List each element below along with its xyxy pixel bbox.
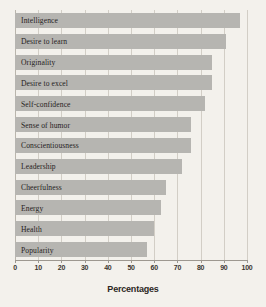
x-tick-mark (247, 260, 248, 263)
bar-category-label: Desire to excel (21, 78, 68, 87)
bar-row: Intelligence (15, 13, 247, 28)
bar-row: Health (15, 221, 247, 236)
bar-row: Leadership (15, 159, 247, 174)
bar-category-label: Self-confidence (21, 99, 71, 108)
x-tick-label: 90 (220, 264, 227, 271)
bar-row: Desire to learn (15, 34, 247, 49)
bar-row: Sense of humor (15, 117, 247, 132)
bar-category-label: Intelligence (21, 16, 58, 25)
x-tick-mark (177, 260, 178, 263)
bar-category-label: Originality (21, 58, 55, 67)
bar-category-label: Energy (21, 203, 43, 212)
x-tick-label: 60 (151, 264, 158, 271)
bar-row: Originality (15, 55, 247, 70)
x-tick-mark (108, 260, 109, 263)
x-tick-label: 30 (81, 264, 88, 271)
bar-category-label: Popularity (21, 245, 54, 254)
x-tick-mark (15, 260, 16, 263)
bar-row: Conscientiousness (15, 138, 247, 153)
bar-category-label: Sense of humor (21, 120, 70, 129)
x-tick-label: 40 (104, 264, 111, 271)
bar-category-label: Health (21, 224, 42, 233)
bar-row: Cheerfulness (15, 180, 247, 195)
bar-row: Energy (15, 200, 247, 215)
x-axis-title: Percentages (0, 284, 266, 294)
bar-category-label: Leadership (21, 162, 56, 171)
x-tick-label: 0 (13, 264, 17, 271)
bar-category-label: Desire to learn (21, 37, 67, 46)
x-tick-label: 50 (127, 264, 134, 271)
bar-category-label: Cheerfulness (21, 183, 62, 192)
x-tick-mark (38, 260, 39, 263)
x-tick-label: 10 (35, 264, 42, 271)
x-tick-mark (224, 260, 225, 263)
horizontal-bar-chart: IntelligenceDesire to learnOriginalityDe… (0, 0, 266, 307)
plot-area: IntelligenceDesire to learnOriginalityDe… (15, 10, 247, 260)
bar-row: Desire to excel (15, 75, 247, 90)
x-tick-mark (154, 260, 155, 263)
bar-row: Self-confidence (15, 96, 247, 111)
x-tick-mark (201, 260, 202, 263)
x-tick-mark (131, 260, 132, 263)
bar-category-label: Conscientiousness (21, 141, 79, 150)
x-tick-label: 80 (197, 264, 204, 271)
x-tick-label: 100 (242, 264, 253, 271)
x-tick-label: 70 (174, 264, 181, 271)
x-tick-mark (61, 260, 62, 263)
x-tick-mark (85, 260, 86, 263)
bar-row: Popularity (15, 242, 247, 257)
x-tick-label: 20 (58, 264, 65, 271)
gridline-100 (247, 10, 248, 260)
